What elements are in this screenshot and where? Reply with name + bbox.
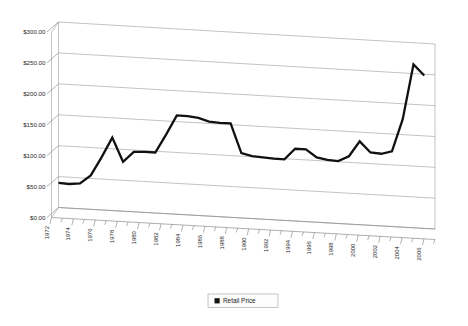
y-axis-tick-label: $250.00	[23, 59, 46, 66]
x-axis-tick-label: 1972	[44, 225, 50, 239]
y-axis-tick-label: $0.00	[30, 214, 46, 221]
y-axis-tick-label: $150.00	[23, 121, 46, 128]
x-axis-tick-label: 1992	[263, 238, 269, 252]
x-axis-tick-label: 1980	[131, 230, 137, 244]
chart-background	[0, 0, 468, 326]
x-axis-tick-label: 2004	[394, 245, 400, 259]
y-axis-tick-label: $100.00	[23, 152, 46, 159]
x-axis-tick-label: 2002	[372, 244, 378, 258]
x-axis-tick-label: 1978	[109, 229, 115, 243]
x-axis-tick-label: 1982	[153, 232, 159, 246]
x-axis-tick-label: 1990	[241, 237, 247, 251]
chart-container: $300.00$250.00$200.00$150.00$100.00$50.0…	[0, 0, 468, 326]
x-axis-tick-label: 1988	[219, 235, 225, 249]
x-axis-tick-label: 1984	[175, 233, 181, 247]
y-axis-tick-label: $50.00	[27, 183, 46, 190]
legend-swatch-icon	[215, 298, 220, 303]
x-axis-tick-label: 1998	[328, 242, 334, 256]
y-axis-tick-label: $200.00	[23, 90, 46, 97]
x-axis-tick-label: 1976	[87, 228, 93, 242]
y-axis-tick-label: $300.00	[23, 28, 46, 35]
x-axis-tick-label: 2006	[416, 247, 422, 261]
legend-group: Retail Price	[208, 294, 278, 308]
x-axis-tick-label: 1986	[197, 234, 203, 248]
retail-price-line-chart: $300.00$250.00$200.00$150.00$100.00$50.0…	[0, 0, 468, 326]
legend-label-retail-price: Retail Price	[223, 297, 256, 304]
x-axis-tick-label: 1994	[285, 239, 291, 253]
x-axis-tick-label: 2000	[350, 243, 356, 257]
x-axis-tick-label: 1974	[65, 227, 71, 241]
x-axis-tick-label: 1996	[306, 240, 312, 254]
